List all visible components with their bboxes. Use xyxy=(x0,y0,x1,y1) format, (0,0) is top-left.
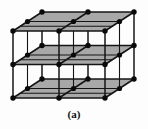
lattice-node xyxy=(102,95,107,100)
lattice-node xyxy=(102,62,107,67)
lattice-node xyxy=(10,95,15,100)
lattice-node xyxy=(10,62,15,67)
lattice-node xyxy=(25,52,30,57)
lattice-node xyxy=(56,62,61,67)
lattice-node xyxy=(39,9,44,14)
lattice-node xyxy=(71,52,76,57)
lattice-node xyxy=(117,19,122,24)
lattice-diagram xyxy=(0,0,148,112)
figure-caption: (a) xyxy=(0,108,148,120)
lattice-figure: (a) xyxy=(0,0,148,129)
lattice-node xyxy=(102,28,107,33)
lattice-node xyxy=(25,86,30,91)
lattice-node xyxy=(131,76,136,81)
lattice-node xyxy=(85,9,90,14)
lattice-node xyxy=(39,43,44,48)
lattice-node xyxy=(25,19,30,24)
lattice-node xyxy=(10,28,15,33)
lattice-node xyxy=(117,86,122,91)
lattice-node xyxy=(85,76,90,81)
lattice-node xyxy=(117,52,122,57)
lattice-node xyxy=(56,28,61,33)
lattice-node xyxy=(56,95,61,100)
lattice-node xyxy=(131,9,136,14)
lattice-node xyxy=(39,76,44,81)
lattice-node xyxy=(131,43,136,48)
lattice-node xyxy=(71,19,76,24)
lattice-node xyxy=(85,43,90,48)
lattice-nodes xyxy=(10,9,136,100)
lattice-node xyxy=(71,86,76,91)
